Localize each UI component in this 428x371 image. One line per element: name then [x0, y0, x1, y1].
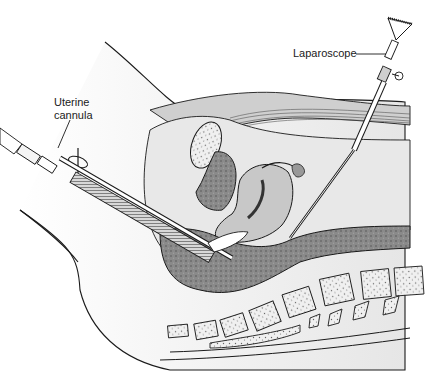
label-uterine-cannula: Uterine cannula	[54, 96, 114, 122]
label-uterine-cannula-line2: cannula	[54, 109, 114, 122]
label-uterine-cannula-line1: Uterine	[54, 96, 114, 109]
label-laparoscope: Laparoscope	[293, 47, 357, 60]
figure: Uterine cannula Laparoscope	[0, 0, 428, 371]
pelvis-illustration	[0, 0, 428, 371]
